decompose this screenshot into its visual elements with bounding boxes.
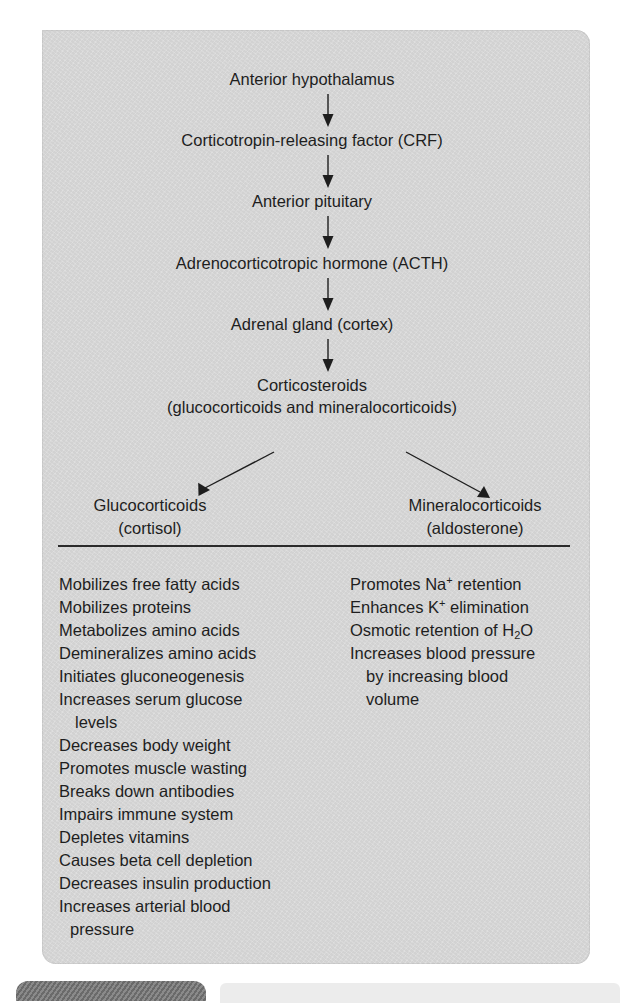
branch-mineralocorticoids-example: (aldosterone)	[390, 517, 560, 540]
list-item: Causes beta cell depletion	[59, 849, 271, 872]
list-item-continuation: pressure	[59, 918, 271, 941]
list-item: Decreases insulin production	[59, 872, 271, 895]
list-item: Promotes Na+ retention	[350, 573, 535, 596]
node-acth: Adrenocorticotropic hormone (ACTH)	[0, 254, 624, 273]
list-item: Enhances K+ elimination	[350, 596, 535, 619]
list-item-text: O	[520, 621, 533, 639]
node-anterior-hypothalamus: Anterior hypothalamus	[0, 70, 624, 89]
node-corticosteroids-subtitle: (glucocorticoids and mineralocorticoids)	[0, 398, 624, 417]
branch-glucocorticoids: Glucocorticoids (cortisol)	[70, 494, 230, 540]
list-item: Breaks down antibodies	[59, 780, 271, 803]
section-divider	[58, 545, 570, 547]
section-header-bar	[220, 983, 620, 1003]
branch-mineralocorticoids-name: Mineralocorticoids	[390, 494, 560, 517]
section-tab-dark	[16, 981, 206, 1001]
list-item-continuation: by increasing blood	[350, 665, 535, 688]
list-item-text: Increases serum glucose	[59, 690, 242, 708]
list-item: Impairs immune system	[59, 803, 271, 826]
branch-glucocorticoids-example: (cortisol)	[70, 517, 230, 540]
list-item: Increases arterial blood pressure	[59, 895, 271, 941]
mineralocorticoid-effects-list: Promotes Na+ retention Enhances K+ elimi…	[350, 573, 535, 711]
branch-glucocorticoids-name: Glucocorticoids	[70, 494, 230, 517]
list-item: Initiates gluconeogenesis	[59, 665, 271, 688]
list-item-text: Enhances K	[350, 598, 439, 616]
list-item-text: Increases arterial blood	[59, 897, 231, 915]
list-item: Osmotic retention of H2O	[350, 619, 535, 642]
list-item: Increases blood pressure by increasing b…	[350, 642, 535, 711]
list-item-text: elimination	[445, 598, 528, 616]
glucocorticoid-effects-list: Mobilizes free fatty acids Mobilizes pro…	[59, 573, 271, 941]
list-item: Decreases body weight	[59, 734, 271, 757]
list-item-text: Promotes Na	[350, 575, 446, 593]
node-adrenal-gland: Adrenal gland (cortex)	[0, 315, 624, 334]
list-item-continuation: levels	[59, 711, 271, 734]
node-crf: Corticotropin-releasing factor (CRF)	[0, 131, 624, 150]
node-anterior-pituitary: Anterior pituitary	[0, 192, 624, 211]
list-item: Metabolizes amino acids	[59, 619, 271, 642]
list-item: Mobilizes proteins	[59, 596, 271, 619]
list-item-text: Increases blood pressure	[350, 644, 535, 662]
list-item-text: retention	[453, 575, 522, 593]
list-item-continuation: volume	[350, 688, 535, 711]
list-item: Promotes muscle wasting	[59, 757, 271, 780]
list-item: Mobilizes free fatty acids	[59, 573, 271, 596]
list-item: Demineralizes amino acids	[59, 642, 271, 665]
list-item: Increases serum glucose levels	[59, 688, 271, 734]
list-item-text: Osmotic retention of H	[350, 621, 514, 639]
node-corticosteroids: Corticosteroids	[0, 376, 624, 395]
list-item: Depletes vitamins	[59, 826, 271, 849]
branch-mineralocorticoids: Mineralocorticoids (aldosterone)	[390, 494, 560, 540]
